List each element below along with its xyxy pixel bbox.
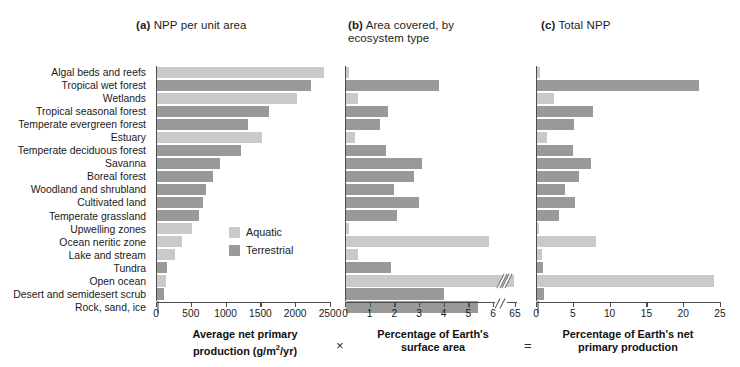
bar-terrestrial [537,106,593,117]
bar-row [157,144,332,157]
category-label: Boreal forest [0,170,152,183]
bar-terrestrial [157,119,247,130]
category-label: Savanna [0,157,152,170]
x-tick-label: 3 [416,308,422,319]
bar-row [537,183,726,196]
bar-row [157,288,332,301]
bar-row [157,131,332,144]
bar-aquatic [537,93,554,104]
bar-row [346,131,521,144]
panel-c-axis-title-line1: Percentage of Earth's net [563,328,694,340]
bar-terrestrial [537,145,573,156]
panel-c-tag: (c) [541,19,555,31]
bar-aquatic [346,236,489,247]
bar-aquatic [157,93,296,104]
category-label: Upwelling zones [0,223,152,236]
bar-row [157,262,332,275]
bar-aquatic [537,132,547,143]
x-axis-break-mark [493,302,509,312]
panel-b: 012345665 Percentage of Earth's surface … [345,66,521,301]
bar-aquatic [346,67,349,78]
category-label: Rock, sand, ice [0,301,152,314]
category-label: Lake and stream [0,249,152,262]
x-tick [370,302,371,307]
bar-terrestrial [537,184,564,195]
panel-a-title-text: NPP per unit area [150,19,246,31]
category-label: Temperate grassland [0,210,152,223]
legend-item-terrestrial: Terrestrial [229,242,293,258]
bar-terrestrial [537,288,544,299]
bar-terrestrial [157,197,202,208]
bar-terrestrial [157,262,167,273]
bar-row [346,183,521,196]
bar-terrestrial [157,145,241,156]
bar-axis-break [498,274,511,288]
bar-aquatic [157,236,182,247]
x-tick [345,302,346,307]
bar-terrestrial [157,171,213,182]
bar-row [157,210,332,223]
bar-row [537,262,726,275]
bar-aquatic [346,275,514,286]
panel-b-title: (b) Area covered, by ecosystem type [348,19,454,45]
category-label: Cultivated land [0,196,152,209]
category-label: Temperate deciduous forest [0,144,152,157]
panel-b-plot [345,66,521,301]
x-tick-label-break: 65 [509,308,520,319]
npp-figure: (a) NPP per unit area (b) Area covered, … [0,0,740,367]
bar-terrestrial [157,184,206,195]
x-tick-label: 1500 [249,308,272,319]
x-tick-label: 2000 [284,308,307,319]
x-tick-label: 2 [391,308,397,319]
bar-row [537,170,726,183]
bar-terrestrial [157,106,268,117]
bar-terrestrial [157,210,199,221]
bar-row [537,223,726,236]
bar-terrestrial [537,119,574,130]
x-tick [536,302,537,307]
legend-label: Aquatic [246,226,282,238]
bar-row [346,66,521,79]
bar-row [346,210,521,223]
bar-terrestrial [346,106,388,117]
panel-a-axis-title-tail: /yr) [280,345,297,357]
category-label: Open ocean [0,275,152,288]
bar-row [157,170,332,183]
bar-row [346,275,521,288]
legend-swatch-terrestrial-icon [229,245,240,256]
bar-row [537,288,726,301]
bar-aquatic [537,236,596,247]
legend: AquaticTerrestrial [229,224,293,260]
category-label: Tropical seasonal forest [0,105,152,118]
panel-c-bars [537,66,726,301]
panel-b-title-text: Area covered, by [363,19,454,31]
x-tick-label: 500 [182,308,199,319]
category-label: Estuary [0,131,152,144]
panel-a-title: (a) NPP per unit area [136,19,247,32]
panel-b-axis-title-line2: surface area [401,341,465,353]
panel-b-axis-title-line1: Percentage of Earth's [377,328,489,340]
panel-c-x-axis [536,302,721,303]
bar-row [537,79,726,92]
panel-a-axis-title: Average net primary production (g/m2/yr) [140,328,350,358]
panel-c-plot [536,66,726,301]
panel-a: 05001000150020002500 Average net primary… [156,66,332,301]
x-tick [610,302,611,307]
bar-aquatic [346,249,357,260]
bar-row [537,275,726,288]
category-label: Desert and semidesert scrub [0,288,152,301]
bar-row [157,157,332,170]
bar-row [157,92,332,105]
panel-b-bars [346,66,521,301]
x-tick [468,302,469,307]
x-tick [444,302,445,307]
panel-a-x-axis [156,302,331,303]
bar-row [346,79,521,92]
x-tick [226,302,227,307]
x-tick [295,302,296,307]
legend-label: Terrestrial [246,244,293,256]
x-tick-label: 1 [367,308,373,319]
x-tick-label: 5 [570,308,576,319]
x-tick-label: 4 [441,308,447,319]
bar-row [346,105,521,118]
